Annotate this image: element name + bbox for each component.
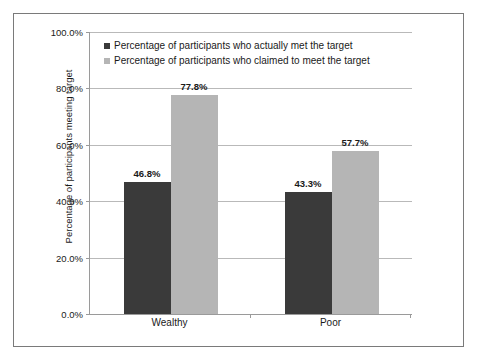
bar[interactable]: 43.3% — [285, 192, 332, 314]
bar-value-label: 43.3% — [295, 178, 322, 189]
y-tick-label: 60.0% — [56, 139, 83, 150]
y-axis-title: Percentage of participants meeting targe… — [63, 37, 74, 277]
x-tick-label: Poor — [320, 317, 341, 328]
y-tick-label: 20.0% — [56, 252, 83, 263]
bar[interactable]: 57.7% — [332, 151, 379, 314]
legend-label-series-1: Percentage of participants who actually … — [114, 40, 352, 51]
legend-swatch-series-1 — [104, 43, 110, 49]
y-tick-mark — [86, 314, 90, 315]
gridline — [90, 314, 412, 315]
legend-swatch-series-2 — [104, 58, 110, 64]
y-tick-label: 40.0% — [56, 196, 83, 207]
plot-area: 0.0%20.0%40.0%60.0%80.0%100.0%46.8%77.8%… — [89, 32, 412, 314]
y-tick-label: 100.0% — [51, 27, 83, 38]
chart-frame: Percentage of participants meeting targe… — [13, 13, 464, 347]
bar-value-label: 77.8% — [181, 81, 208, 92]
y-tick-mark — [86, 145, 90, 146]
x-axis-divider — [250, 314, 251, 318]
legend-item-actually-met[interactable]: Percentage of participants who actually … — [104, 40, 370, 51]
y-tick-mark — [86, 32, 90, 33]
bar[interactable]: 77.8% — [171, 95, 218, 314]
chart-legend: Percentage of participants who actually … — [104, 40, 370, 66]
y-tick-mark — [86, 88, 90, 89]
bar[interactable]: 46.8% — [124, 182, 171, 314]
x-axis: WealthyPoor — [89, 317, 412, 337]
bar-value-label: 46.8% — [134, 168, 161, 179]
legend-item-claimed-to-meet[interactable]: Percentage of participants who claimed t… — [104, 55, 370, 66]
y-tick-mark — [86, 258, 90, 259]
x-axis-divider — [410, 314, 411, 318]
y-tick-label: 80.0% — [56, 83, 83, 94]
gridline — [90, 32, 412, 33]
bar-value-label: 57.7% — [342, 137, 369, 148]
x-tick-label: Wealthy — [152, 317, 188, 328]
legend-label-series-2: Percentage of participants who claimed t… — [114, 55, 370, 66]
y-tick-label: 0.0% — [61, 309, 83, 320]
y-tick-mark — [86, 201, 90, 202]
gridline — [90, 88, 412, 89]
